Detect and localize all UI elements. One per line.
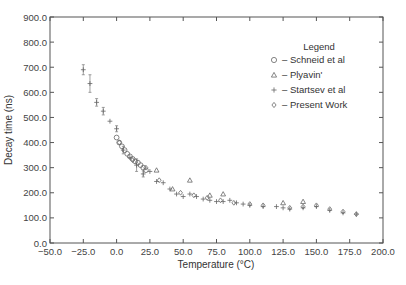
legend-title: Legend	[303, 41, 335, 52]
y-tick-label: 500.0	[23, 112, 47, 123]
legend-label: – Plyavin'	[282, 69, 323, 80]
x-axis-ticks: −50.0−25.00.025.050.075.0100.0125.0150.0…	[38, 17, 395, 257]
x-tick-label: 25.0	[141, 246, 160, 257]
legend-entry: – Plyavin'	[271, 69, 322, 80]
y-tick-label: 200.0	[23, 187, 47, 198]
x-tick-label: 0.0	[110, 246, 123, 257]
series-present-work	[117, 140, 358, 216]
y-tick-label: 900.0	[23, 12, 47, 23]
x-tick-label: 125.0	[271, 246, 295, 257]
x-axis-title: Temperature (°C)	[178, 259, 255, 270]
y-tick-label: 600.0	[23, 87, 47, 98]
legend-label: – Startsev et al	[282, 84, 345, 95]
x-tick-label: 150.0	[305, 246, 329, 257]
x-tick-label: 75.0	[207, 246, 226, 257]
x-tick-label: 175.0	[338, 246, 362, 257]
legend-entry: – Present Work	[272, 99, 348, 110]
legend: Legend – Schneid et al– Plyavin'– Starts…	[271, 41, 347, 110]
x-tick-label: −25.0	[71, 246, 95, 257]
y-tick-label: 700.0	[23, 62, 47, 73]
y-tick-label: 800.0	[23, 37, 47, 48]
legend-entry: – Startsev et al	[271, 84, 345, 95]
x-tick-label: 100.0	[238, 246, 262, 257]
x-tick-label: 200.0	[371, 246, 395, 257]
error-bars	[82, 65, 145, 177]
legend-entry: – Schneid et al	[271, 54, 344, 65]
legend-label: – Schneid et al	[282, 54, 345, 65]
y-tick-label: 300.0	[23, 162, 47, 173]
legend-label: – Present Work	[282, 99, 348, 110]
x-tick-label: 50.0	[174, 246, 193, 257]
y-tick-label: 0.0	[34, 238, 47, 249]
y-tick-label: 100.0	[23, 212, 47, 223]
y-axis-title: Decay time (ns)	[3, 95, 14, 165]
y-tick-label: 400.0	[23, 137, 47, 148]
decay-time-chart: −50.0−25.00.025.050.075.0100.0125.0150.0…	[0, 0, 406, 285]
